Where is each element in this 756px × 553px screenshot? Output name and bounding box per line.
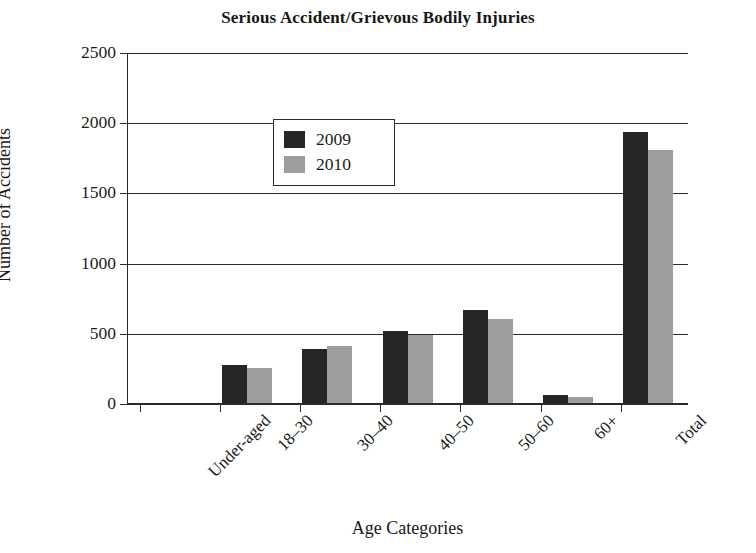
x-axis-title: Age Categories [127, 518, 688, 539]
legend-swatch-2010 [284, 156, 305, 173]
bar-2009-6 [623, 132, 648, 404]
x-tick-mark-6 [621, 404, 622, 412]
bar-group-1 [222, 53, 272, 404]
x-tick-label-6: Total [672, 411, 711, 450]
y-tick-mark-2000 [120, 123, 127, 124]
y-tick-label-2000: 2000 [81, 112, 116, 133]
bar-2010-2 [327, 346, 352, 404]
y-tick-mark-1500 [120, 193, 127, 194]
chart-figure: Serious Accident/Grievous Bodily Injurie… [0, 0, 756, 553]
chart-title: Serious Accident/Grievous Bodily Injurie… [0, 8, 756, 28]
bar-2009-3 [383, 331, 408, 404]
y-tick-label-2500: 2500 [81, 42, 116, 63]
bar-2010-3 [408, 335, 433, 404]
chart-legend: 2009 2010 [273, 119, 395, 186]
bar-group-2 [302, 53, 352, 404]
x-tick-label-3: 40–50 [434, 411, 478, 455]
y-tick-mark-500 [120, 334, 127, 335]
x-tick-mark-1 [220, 404, 221, 412]
x-tick-mark-5 [541, 404, 542, 412]
x-tick-mark-4 [460, 404, 461, 412]
y-tick-mark-0 [120, 404, 127, 405]
bar-2010-4 [488, 319, 513, 404]
legend-label-2010: 2010 [316, 156, 351, 174]
x-axis-line [127, 403, 688, 404]
bar-group-3 [383, 53, 433, 404]
y-tick-label-0: 0 [107, 393, 116, 414]
legend-label-2009: 2009 [316, 131, 351, 149]
y-tick-mark-2500 [120, 53, 127, 54]
bar-group-6 [623, 53, 673, 404]
bar-2010-6 [648, 150, 673, 404]
x-tick-label-1: 18–30 [274, 411, 318, 455]
x-tick-label-5: 60+ [590, 411, 623, 444]
x-tick-mark-3 [380, 404, 381, 412]
bar-group-5 [543, 53, 593, 404]
y-axis-line [127, 53, 128, 404]
y-tick-label-1500: 1500 [81, 182, 116, 203]
y-tick-label-1000: 1000 [81, 253, 116, 274]
plot-area: 05001000150020002500 2009 2010 [127, 53, 688, 404]
x-tick-mark-0 [140, 404, 141, 412]
bar-group-4 [463, 53, 513, 404]
y-axis-title: Number of Accidents [0, 40, 15, 370]
legend-item-2009: 2009 [284, 127, 384, 152]
y-tick-mark-1000 [120, 264, 127, 265]
bar-group-0 [142, 53, 192, 404]
y-tick-label-500: 500 [90, 323, 116, 344]
x-tick-mark-2 [300, 404, 301, 412]
gridline-0 [127, 404, 688, 405]
legend-item-2010: 2010 [284, 152, 384, 177]
legend-swatch-2009 [284, 131, 305, 148]
bar-2010-1 [247, 368, 272, 404]
x-tick-label-0: Under-aged [204, 411, 275, 482]
bar-2009-4 [463, 310, 488, 404]
bar-2009-2 [302, 349, 327, 404]
x-tick-label-2: 30–40 [354, 411, 398, 455]
x-tick-label-4: 50–60 [514, 411, 558, 455]
bar-2009-1 [222, 365, 247, 404]
